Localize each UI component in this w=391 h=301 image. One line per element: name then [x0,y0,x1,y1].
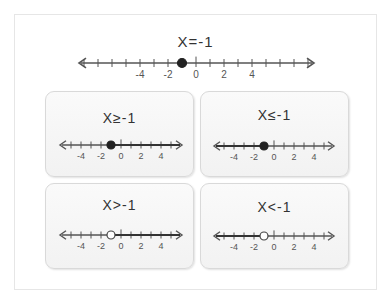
tick-label: 4 [311,152,316,162]
tick-label: 0 [118,151,123,161]
tick-label: 0 [271,152,276,162]
open-point-icon [260,232,268,240]
number-line: -4-2024 [214,230,334,251]
tick-label: -2 [250,152,258,162]
tick-label: 4 [158,151,163,161]
card-number-lines: -4-2024-4-2024-4-2024-4-2024 [0,0,391,301]
open-point-icon [107,231,115,239]
tick-label: -2 [97,151,105,161]
number-line: -4-2024 [214,140,334,161]
tick-label: -4 [77,151,85,161]
tick-label: -4 [230,242,238,252]
tick-label: 0 [118,241,123,251]
number-line: -4-2024 [60,229,182,250]
tick-label: -2 [250,242,258,252]
tick-label: -4 [230,152,238,162]
tick-label: -2 [97,241,105,251]
closed-point-icon [107,141,115,149]
tick-label: 2 [291,152,296,162]
closed-point-icon [260,142,268,150]
tick-label: 4 [311,242,316,252]
tick-label: 2 [291,242,296,252]
tick-label: 4 [158,241,163,251]
tick-label: 2 [138,241,143,251]
tick-label: 0 [271,242,276,252]
tick-label: 2 [138,151,143,161]
number-line: -4-2024 [60,139,182,160]
tick-label: -4 [77,241,85,251]
